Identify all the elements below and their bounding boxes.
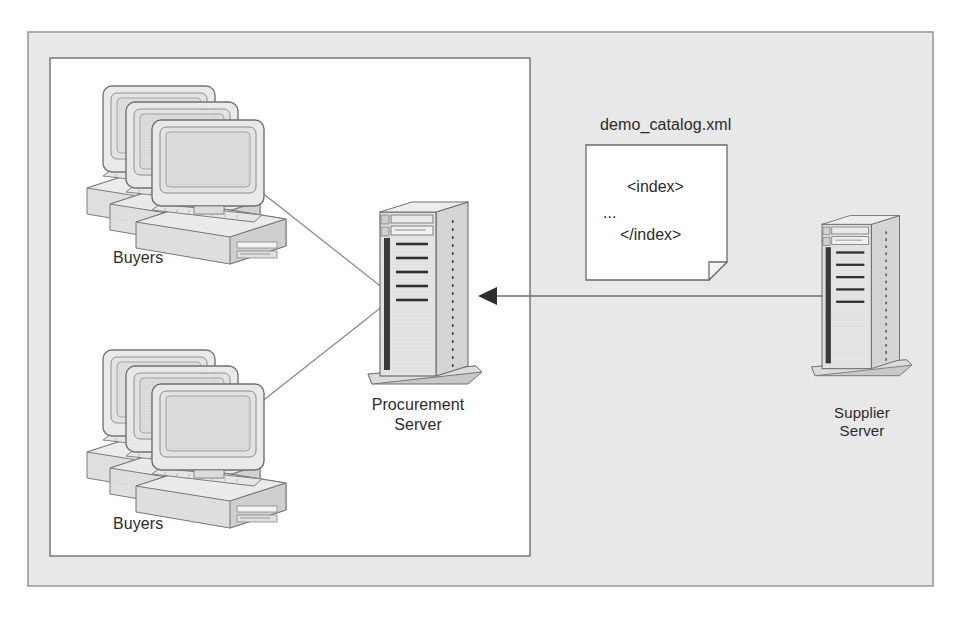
buyers-top-label: Buyers [113,248,163,268]
document-line-open-tag: <index> [627,178,684,196]
diagram-canvas: Buyers Buyers ProcurementServer Supplier… [0,0,958,618]
supplier-server-label: SupplierServer [800,404,924,441]
document-filename-label: demo_catalog.xml [600,115,731,135]
procurement-server-label-line2: Server [358,415,478,435]
supplier-server-icon [812,216,912,376]
document-line-ellipsis: ... [603,204,616,222]
procurement-server-label-line1: Procurement [372,396,465,413]
procurement-server-icon [368,202,482,384]
supplier-server-label-line2: Server [800,422,924,440]
document-line-close-tag: </index> [620,226,681,244]
procurement-server-label: ProcurementServer [358,395,478,434]
buyers-bottom-label: Buyers [113,514,163,534]
supplier-server-label-line1: Supplier [834,404,890,421]
